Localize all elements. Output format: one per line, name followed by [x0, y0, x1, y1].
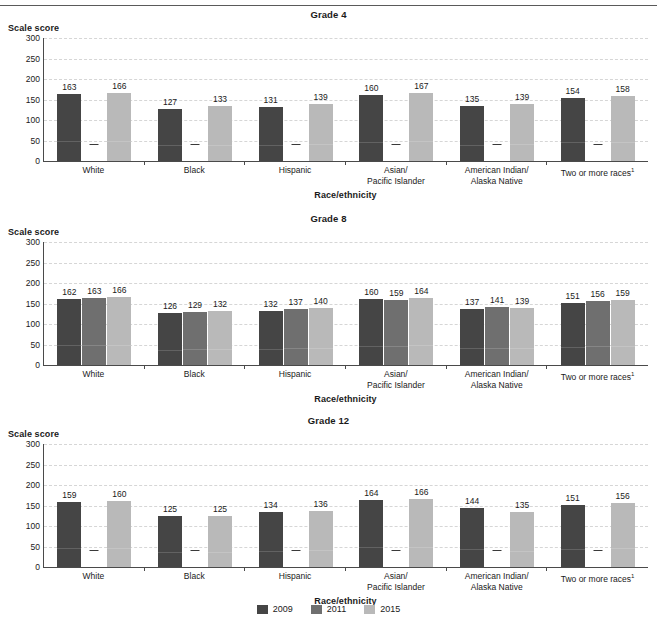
bar-value-label: 151 [566, 291, 580, 301]
bar[interactable]: 166 [107, 93, 131, 161]
bar-value-label: 159 [62, 490, 76, 500]
bar-value-label: 139 [515, 92, 529, 102]
y-axis-tick-label: 100 [26, 115, 40, 125]
bar[interactable]: 166 [409, 499, 433, 567]
bar-slot [384, 38, 408, 161]
bar[interactable]: 160 [359, 299, 383, 365]
bar[interactable]: 139 [510, 308, 534, 365]
y-axis-tick-label: 100 [26, 319, 40, 329]
bar[interactable]: 133 [208, 106, 232, 161]
bar[interactable]: 162 [57, 299, 81, 365]
footnote-marker: 1 [631, 573, 634, 579]
bar-value-label: 151 [566, 493, 580, 503]
bar[interactable]: 163 [57, 94, 81, 161]
legend-item-2011[interactable]: 2011 [311, 604, 346, 614]
bar[interactable]: 164 [409, 298, 433, 365]
bar-slot: 131 [259, 38, 283, 161]
y-axis-tick-label: 150 [26, 501, 40, 511]
y-axis-tick-label: 0 [35, 360, 40, 370]
bar-value-label: 141 [490, 295, 504, 305]
bar-value-label: 133 [213, 94, 227, 104]
y-axis-tick-label: 300 [26, 237, 40, 247]
bar[interactable]: 125 [158, 516, 182, 567]
bar[interactable]: 132 [208, 311, 232, 365]
bar[interactable]: 151 [561, 303, 585, 365]
bar[interactable]: 137 [460, 309, 484, 365]
legend-item-2015[interactable]: 2015 [364, 604, 400, 614]
bar[interactable]: 127 [158, 109, 182, 161]
bar-value-label: 125 [213, 504, 227, 514]
bar[interactable]: 141 [485, 307, 509, 365]
panel-title-grade-12: Grade 12 [0, 414, 657, 427]
bar[interactable]: 159 [611, 300, 635, 365]
bar[interactable]: 137 [284, 309, 308, 365]
panel-title-grade-4: Grade 4 [0, 8, 657, 21]
bar[interactable]: 129 [183, 312, 207, 365]
y-axis-tick-label: 250 [26, 54, 40, 64]
bar[interactable]: 158 [611, 96, 635, 161]
bar[interactable]: 164 [359, 500, 383, 567]
chart-panel-grade-8: Grade 8 Scale score 05010015020025030016… [0, 212, 657, 408]
no-data-dash-icon [291, 550, 300, 551]
bar[interactable]: 139 [510, 104, 534, 161]
bar[interactable]: 140 [309, 308, 333, 365]
bar-slot: 151 [561, 444, 585, 567]
bar-value-label: 131 [264, 95, 278, 105]
y-axis-tick-label: 50 [31, 340, 40, 350]
bar-value-label: 159 [389, 288, 403, 298]
bar[interactable]: 154 [561, 98, 585, 161]
bar-slot [485, 444, 509, 567]
bar-value-label: 160 [364, 287, 378, 297]
x-axis-category-labels-grade-4: WhiteBlackHispanicAsian/Pacific Islander… [43, 165, 648, 186]
bar-slot: 137 [284, 242, 308, 365]
y-axis-tick-label: 200 [26, 74, 40, 84]
bar-value-label: 135 [515, 500, 529, 510]
bar[interactable]: 136 [309, 511, 333, 567]
bar-value-label: 159 [616, 288, 630, 298]
bar[interactable]: 160 [107, 501, 131, 567]
y-axis-tick-label: 150 [26, 299, 40, 309]
bar-group: 151156159 [547, 242, 648, 365]
bar-group: 132137140 [245, 242, 346, 365]
legend-swatch-icon [311, 605, 322, 614]
bar[interactable]: 151 [561, 505, 585, 567]
x-axis-category-label: Two or more races1 [547, 571, 648, 592]
no-data-dash-icon [493, 144, 502, 145]
y-axis-tick-label: 300 [26, 439, 40, 449]
bar-value-label: 127 [163, 97, 177, 107]
bar[interactable]: 144 [460, 508, 484, 567]
bar[interactable]: 159 [57, 502, 81, 567]
bar[interactable]: 163 [82, 298, 106, 365]
bar[interactable]: 166 [107, 297, 131, 365]
bar[interactable]: 131 [259, 107, 283, 161]
bar[interactable]: 134 [259, 512, 283, 567]
x-axis-category-label: Hispanic [245, 165, 346, 186]
bar[interactable]: 167 [409, 93, 433, 161]
bar-slot [284, 38, 308, 161]
x-axis-category-label: Black [144, 369, 245, 390]
bar[interactable]: 160 [359, 95, 383, 161]
bar-value-label: 164 [364, 488, 378, 498]
no-data-dash-icon [593, 550, 602, 551]
bar-slot: 160 [359, 242, 383, 365]
bar[interactable]: 125 [208, 516, 232, 567]
bar[interactable]: 159 [384, 300, 408, 365]
bar-group: 134136 [245, 444, 346, 567]
legend-item-2009[interactable]: 2009 [257, 604, 293, 614]
bar-slot [586, 38, 610, 161]
bar-slot: 127 [158, 38, 182, 161]
bar[interactable]: 135 [510, 512, 534, 567]
bar[interactable]: 139 [309, 104, 333, 161]
bar[interactable]: 156 [586, 301, 610, 365]
bar[interactable]: 135 [460, 106, 484, 161]
bar-value-label: 156 [616, 491, 630, 501]
y-axis-title-grade-8: Scale score [8, 227, 59, 237]
bar-value-label: 160 [112, 489, 126, 499]
x-axis-category-label: White [43, 571, 144, 592]
bar-value-label: 129 [188, 300, 202, 310]
bar[interactable]: 132 [259, 311, 283, 365]
bar[interactable]: 126 [158, 313, 182, 365]
bar-slot: 125 [158, 444, 182, 567]
bar-slot: 164 [359, 444, 383, 567]
bar[interactable]: 156 [611, 503, 635, 567]
